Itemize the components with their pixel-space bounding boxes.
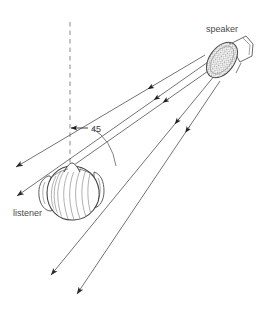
angle-label: 45 xyxy=(91,124,101,134)
listener-illustration: listener xyxy=(13,163,104,220)
listener-label: listener xyxy=(13,208,42,218)
diagram-canvas: 45 speaker xyxy=(0,0,265,310)
listener-nose xyxy=(64,163,80,172)
sound-ray-2 xyxy=(17,62,208,196)
sound-ray-1 xyxy=(16,55,205,167)
speaker-illustration: speaker xyxy=(200,24,253,84)
speaker-rim-bottom xyxy=(236,63,241,73)
speaker-label: speaker xyxy=(206,24,238,34)
sound-ray-group xyxy=(16,55,220,294)
acoustic-ray-diagram: 45 speaker xyxy=(0,0,265,310)
sound-ray-3 xyxy=(64,69,211,172)
